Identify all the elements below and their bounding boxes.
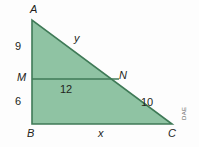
triangle-abc-shape xyxy=(32,20,172,124)
vertex-label-n: N xyxy=(119,70,127,81)
credit-watermark: DAE xyxy=(181,107,187,120)
vertex-label-m: M xyxy=(17,72,26,83)
vertex-label-c: C xyxy=(168,128,176,139)
vertex-label-a: A xyxy=(30,4,37,15)
measure-label-bc: x xyxy=(98,128,104,139)
vertex-label-b: B xyxy=(27,128,34,139)
measure-label-am: 9 xyxy=(15,41,21,52)
measure-label-an: y xyxy=(74,33,80,44)
measure-label-mb: 6 xyxy=(15,96,21,107)
measure-label-mn: 12 xyxy=(60,84,72,95)
geometry-figure: A B C M N 9 6 12 10 y x DAE xyxy=(0,0,199,147)
measure-label-nc: 10 xyxy=(141,97,153,108)
triangle-diagram-svg xyxy=(0,0,199,147)
